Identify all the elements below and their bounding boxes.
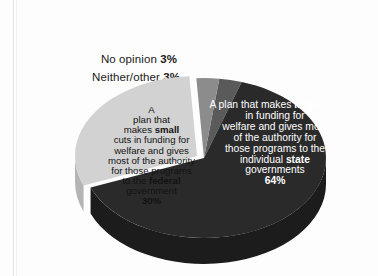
pie-chart — [78, 72, 330, 252]
callout-no-opinion-text: No opinion — [101, 53, 160, 65]
callout-no-opinion-value: 3% — [160, 53, 177, 65]
scan-margin-rule-secondary — [16, 0, 17, 276]
pie-chart-svg — [78, 72, 330, 252]
scan-margin-rule — [13, 0, 14, 276]
callout-label-no-opinion: No opinion 3% — [0, 54, 177, 66]
chart-canvas: No opinion 3% Neither/other 3% — [0, 0, 378, 276]
